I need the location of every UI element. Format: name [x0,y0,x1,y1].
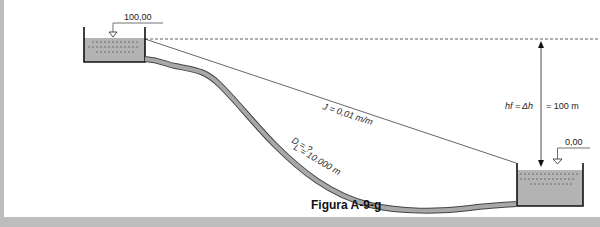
energy-grade-line [145,39,516,163]
pipe-length-label: L = 10.000 m [292,142,343,177]
upper-reservoir [84,23,163,62]
head-loss-label-left: hf = [505,101,520,111]
water-level-icon [553,159,562,164]
head-loss-label-right: = 100 m [546,101,579,111]
arrow-up-icon [538,41,544,48]
hydraulic-diagram: 100,00 0,00 J = 0,01 m/m D = ? L = 10.00… [0,0,600,227]
upper-level-label: 100,00 [124,12,152,22]
head-loss-label-mid: Δh [521,101,533,111]
lower-level-label: 0,00 [565,137,583,147]
arrow-down-icon [538,160,544,167]
pipe-body [145,59,516,211]
water-level-icon [109,32,117,37]
figure-caption: Figura A-9-g [311,198,381,212]
lower-reservoir [517,148,590,206]
energy-slope-label: J = 0,01 m/m [320,101,374,127]
head-dimension-arrow [538,41,544,167]
